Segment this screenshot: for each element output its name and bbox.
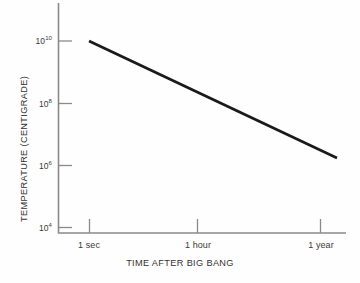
y-tick-exponent: 10 xyxy=(45,35,52,41)
y-tick-label: 104 xyxy=(10,223,52,233)
x-tick-label: 1 year xyxy=(308,240,334,250)
y-tick-exponent: 4 xyxy=(49,222,52,228)
plot-area xyxy=(0,0,360,283)
y-axis-title: TEMPERATURE (CENTIGRADE) xyxy=(19,76,29,222)
y-tick-label: 1010 xyxy=(10,36,52,46)
y-tick-exponent: 8 xyxy=(49,98,52,104)
x-tick-label: 1 hour xyxy=(185,240,211,250)
x-axis-title: TIME AFTER BIG BANG xyxy=(0,258,360,268)
y-tick-exponent: 6 xyxy=(49,160,52,166)
chart-figure: 1010 108 106 104 1 sec 1 hour 1 year TIM… xyxy=(0,0,360,283)
y-tick-label: 106 xyxy=(10,161,52,171)
y-tick-label: 108 xyxy=(10,99,52,109)
data-series-line xyxy=(89,41,337,158)
x-tick-label: 1 sec xyxy=(78,240,100,250)
